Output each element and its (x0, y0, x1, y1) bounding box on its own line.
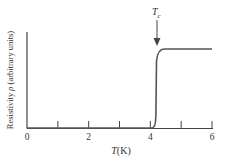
y-axis-label: Resistivity ρ (arbitrary units) (5, 31, 15, 129)
tc-annotation: Tc (152, 6, 162, 20)
x-tick-labels: 0246 (25, 132, 215, 142)
resistivity-curve (27, 49, 212, 128)
svg-text:2: 2 (86, 132, 91, 142)
svg-text:4: 4 (148, 132, 153, 142)
resistivity-chart: 0246 Tc T(K) Resistivity ρ (arbitrary un… (0, 0, 229, 168)
x-axis-label: T(K) (111, 145, 130, 157)
svg-text:0: 0 (25, 132, 30, 142)
svg-text:6: 6 (210, 132, 215, 142)
tc-arrow-icon (154, 20, 161, 46)
